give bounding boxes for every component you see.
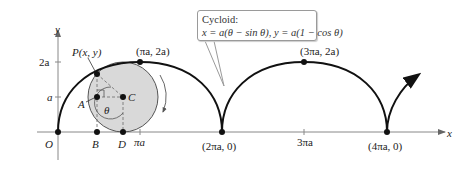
point-p-label: P(x, y) — [71, 46, 102, 59]
cusp2-label: (4πa, 0) — [368, 140, 403, 153]
peak1-label: (πa, 2a) — [136, 45, 170, 58]
point-c-label: C — [128, 91, 136, 103]
x-tick-3pia: 3πa — [297, 136, 313, 148]
theta-label: θ — [104, 104, 110, 116]
point-b-label: B — [92, 138, 99, 150]
cusp1-label: (2πa, 0) — [202, 140, 237, 153]
x-axis-label: x — [446, 127, 452, 139]
point-a-label: A — [77, 98, 85, 110]
callout-equation: x = a(θ − sin θ), y = a(1 − cos θ) — [202, 26, 312, 39]
y-axis-label: y — [54, 23, 60, 35]
rotation-arrow — [160, 75, 166, 112]
callout-title: Cycloid: — [202, 13, 312, 26]
cycloid-callout: Cycloid: x = a(θ − sin θ), y = a(1 − cos… — [197, 10, 317, 41]
origin-label: O — [45, 138, 53, 150]
x-tick-pia: πa — [134, 136, 146, 148]
point-d-label: D — [117, 138, 126, 150]
y-tick-a: a — [47, 91, 53, 103]
y-tick-2a: 2a — [39, 56, 50, 68]
peak2-label: (3πa, 2a) — [300, 45, 339, 58]
